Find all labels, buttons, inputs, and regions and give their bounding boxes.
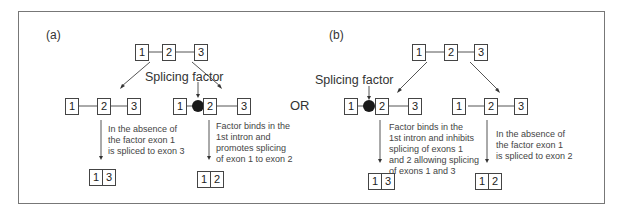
splicing-factor-dot-b <box>363 100 375 112</box>
product-exon-box: 2 <box>488 173 502 190</box>
exon-box: 1 <box>173 98 187 115</box>
exon-box: 2 <box>203 98 217 115</box>
exon-box: 1 <box>65 98 79 115</box>
exon-box: 3 <box>474 44 488 61</box>
annotation-note: In the absence of the factor exon 1 is s… <box>496 129 573 162</box>
exon-box: 3 <box>514 98 528 115</box>
exon-box: 2 <box>444 44 458 61</box>
panel-a-label: (a) <box>46 28 61 42</box>
exon-box: 2 <box>97 98 111 115</box>
product-exon-box: 1 <box>475 173 489 190</box>
exon-box: 1 <box>135 44 149 61</box>
exon-box: 3 <box>194 44 208 61</box>
annotation-note: Factor binds in the 1st intron and promo… <box>216 121 293 165</box>
connector-lines <box>0 0 623 222</box>
annotation-note: In the absence of the factor exon 1 is s… <box>108 124 185 157</box>
splicing-factor-label: Splicing factor <box>145 70 224 84</box>
annotation-note: Factor binds in the 1st intron and inhib… <box>389 122 479 177</box>
exon-box: 1 <box>344 98 358 115</box>
exon-box: 3 <box>408 98 422 115</box>
product-exon-box: 3 <box>102 169 116 186</box>
product-exon-box: 1 <box>197 171 211 188</box>
exon-box: 3 <box>237 98 251 115</box>
or-separator: OR <box>290 98 310 113</box>
exon-box: 1 <box>452 98 466 115</box>
exon-box: 1 <box>412 44 426 61</box>
product-exon-box: 1 <box>368 173 382 190</box>
splicing-factor-label: Splicing factor <box>315 73 394 87</box>
product-exon-box: 1 <box>89 169 103 186</box>
exon-box: 2 <box>375 98 389 115</box>
exon-box: 3 <box>127 98 141 115</box>
product-exon-box: 2 <box>210 171 224 188</box>
product-exon-box: 3 <box>381 173 395 190</box>
exon-box: 2 <box>162 44 176 61</box>
exon-box: 2 <box>484 98 498 115</box>
panel-b-label: (b) <box>329 28 344 42</box>
